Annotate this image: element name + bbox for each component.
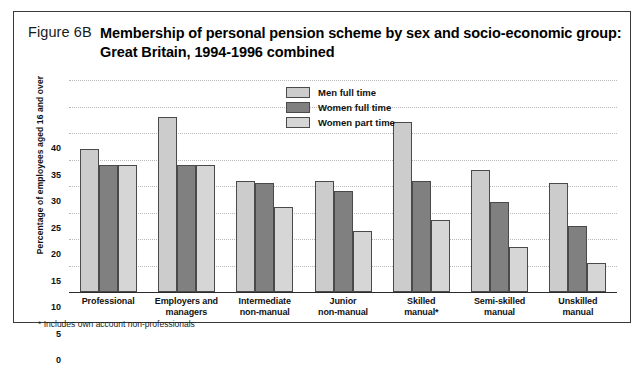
legend-item-label: Women part time — [318, 117, 395, 128]
bar-group — [393, 80, 450, 292]
y-axis-tick-label: 10 — [39, 302, 61, 312]
y-axis-tick-label: 40 — [39, 143, 61, 153]
y-axis-tick-label: 35 — [39, 170, 61, 180]
legend-item[interactable]: Women full time — [286, 101, 395, 114]
bar[interactable] — [118, 165, 137, 292]
x-axis-category-label: Unskilledmanual — [539, 296, 617, 318]
bar[interactable] — [196, 165, 215, 292]
y-axis-title: Percentage of employees aged 16 and over — [35, 60, 45, 270]
bar-group — [80, 80, 137, 292]
bar[interactable] — [549, 183, 568, 292]
bar[interactable] — [315, 181, 334, 292]
figure-footnote: * Includes own account non-professionals — [38, 319, 195, 329]
x-axis-category-label-line: Unskilled — [539, 296, 617, 307]
bar[interactable] — [471, 170, 490, 292]
x-axis-category-label: Juniornon-manual — [304, 296, 382, 318]
y-axis-tick-label: 5 — [39, 329, 61, 339]
x-axis-category-label: Employers andmanagers — [147, 296, 225, 318]
x-axis-category-label-line: Skilled — [382, 296, 460, 307]
x-axis-line — [69, 292, 617, 293]
x-axis-category-label-line: Semi-skilled — [460, 296, 538, 307]
legend-swatch-icon — [286, 117, 310, 128]
x-axis-category-label: Professional — [69, 296, 147, 307]
bar[interactable] — [99, 165, 118, 292]
legend-item-label: Men full time — [318, 87, 376, 98]
y-axis-tick-label: 20 — [39, 249, 61, 259]
y-axis-tick-label: 15 — [39, 276, 61, 286]
y-axis-tick-label: 25 — [39, 223, 61, 233]
legend-item[interactable]: Women part time — [286, 116, 395, 129]
legend-swatch-icon — [286, 87, 310, 98]
bar[interactable] — [255, 183, 274, 292]
legend-swatch-icon — [286, 102, 310, 113]
bar[interactable] — [393, 122, 412, 292]
bar[interactable] — [274, 207, 293, 292]
bar[interactable] — [412, 181, 431, 292]
x-axis-category-label-line: non-manual — [226, 307, 304, 318]
y-axis-tick-label: 30 — [39, 196, 61, 206]
x-axis-category-label: Skilledmanual* — [382, 296, 460, 318]
x-axis-category-label-line: Junior — [304, 296, 382, 307]
bar[interactable] — [236, 181, 255, 292]
x-axis-category-label-line: Professional — [69, 296, 147, 307]
x-axis-category-label-line: Employers and — [147, 296, 225, 307]
x-axis-category-label-line: non-manual — [304, 307, 382, 318]
bar[interactable] — [80, 149, 99, 292]
bar[interactable] — [587, 263, 606, 292]
bar[interactable] — [431, 220, 450, 292]
legend-item[interactable]: Men full time — [286, 86, 395, 99]
bar[interactable] — [158, 117, 177, 292]
chart-plot-wrapper: Percentage of employees aged 16 and over… — [14, 12, 632, 324]
bar[interactable] — [568, 226, 587, 292]
bar-group — [549, 80, 606, 292]
x-axis-category-label-line: Intermediate — [226, 296, 304, 307]
bar-group — [158, 80, 215, 292]
bar-group — [471, 80, 528, 292]
x-axis-category-label-line: manual — [460, 307, 538, 318]
bar-group — [236, 80, 293, 292]
y-axis-tick-label: 0 — [39, 355, 61, 365]
chart-legend: Men full timeWomen full timeWomen part t… — [286, 86, 395, 131]
x-axis-category-label: Semi-skilledmanual — [460, 296, 538, 318]
bar[interactable] — [334, 191, 353, 292]
x-axis-category-label-line: manual — [539, 307, 617, 318]
figure-frame: Figure 6B Membership of personal pension… — [13, 11, 631, 323]
bar[interactable] — [490, 202, 509, 292]
bar[interactable] — [509, 247, 528, 292]
x-axis-category-label-line: manual* — [382, 307, 460, 318]
bar[interactable] — [177, 165, 196, 292]
legend-item-label: Women full time — [318, 102, 391, 113]
x-axis-category-label-line: managers — [147, 307, 225, 318]
x-axis-category-label: Intermediatenon-manual — [226, 296, 304, 318]
bar[interactable] — [353, 231, 372, 292]
